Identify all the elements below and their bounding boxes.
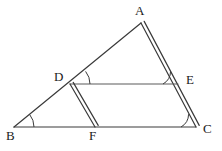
vertex-label-e: E <box>186 73 194 86</box>
vertex-label-c: C <box>203 122 212 135</box>
angle-tick-c <box>181 114 189 127</box>
segment-df <box>70 82 98 127</box>
angle-tick-e <box>163 71 171 84</box>
geometry-figure: A B C D E F <box>0 0 222 151</box>
segment-ab <box>14 23 141 127</box>
vertex-label-f: F <box>89 129 96 142</box>
segment-df-stroke-inner <box>73 82 98 125</box>
angle-arc-b <box>30 114 34 127</box>
segment-df-stroke-outer <box>70 84 95 127</box>
vertex-label-d: D <box>54 70 63 83</box>
vertex-label-a: A <box>135 4 144 17</box>
vertex-label-b: B <box>6 129 15 142</box>
angle-arc-d <box>86 71 90 84</box>
